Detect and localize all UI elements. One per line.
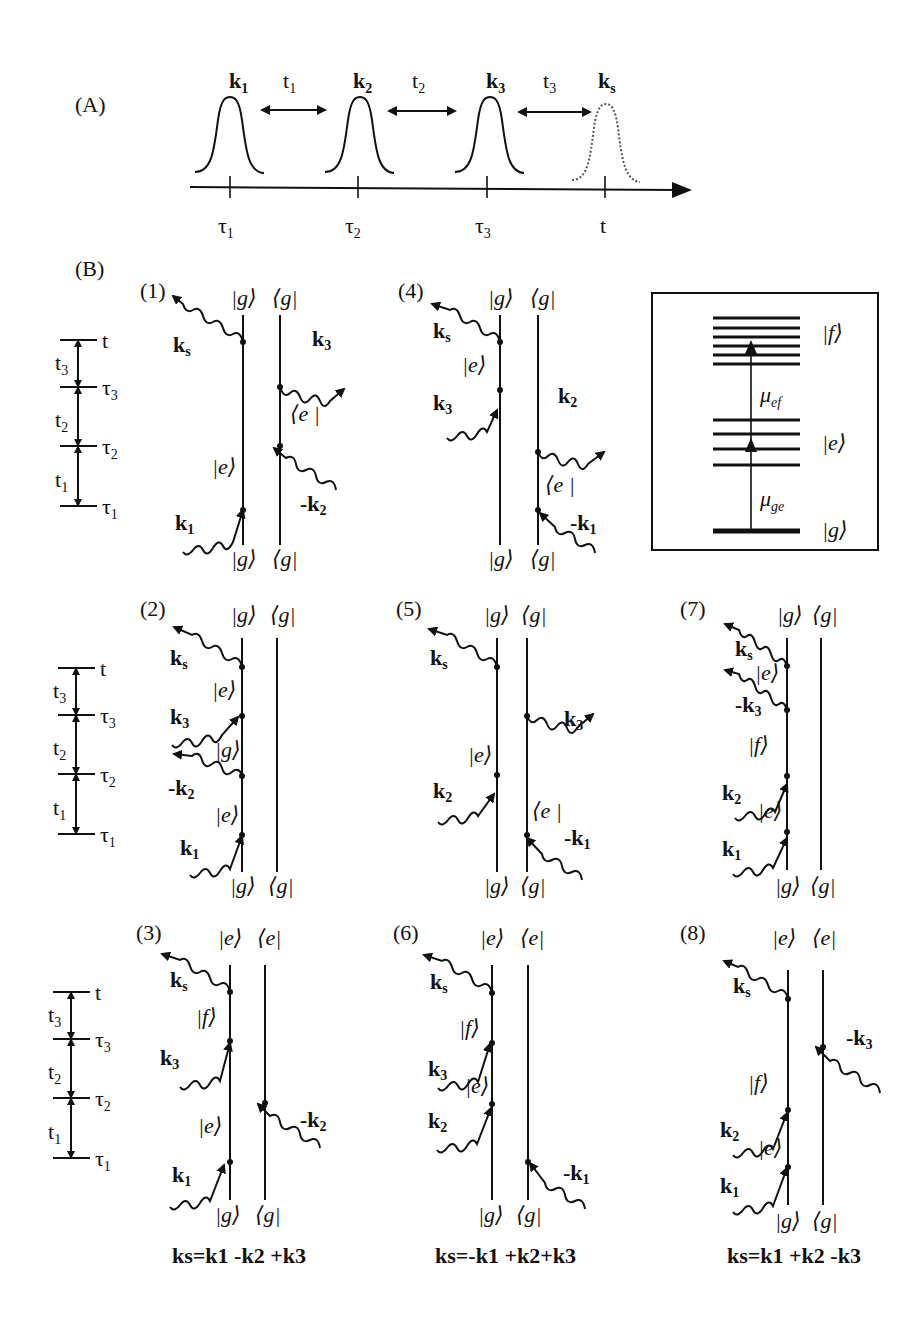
timeline-t: t (102, 328, 108, 353)
svg-text:|e⟩: |e⟩ (468, 742, 492, 767)
svg-text:|g⟩: |g⟩ (488, 546, 514, 571)
svg-text:|e⟩: |e⟩ (462, 352, 486, 377)
svg-text:k3: k3 (564, 706, 583, 733)
svg-text:k1: k1 (180, 835, 199, 862)
svg-text:|e⟩: |e⟩ (755, 660, 779, 685)
svg-text:⟨g|: ⟨g| (810, 873, 836, 898)
svg-text:τ2: τ2 (95, 1086, 111, 1114)
svg-text:k3: k3 (170, 704, 189, 731)
svg-text:|e⟩: |e⟩ (480, 925, 504, 950)
svg-text:-k2: -k2 (300, 491, 327, 518)
svg-text:⟨g|: ⟨g| (812, 602, 838, 627)
energy-level-diagram: |f⟩ |e⟩ |g⟩ μef μge (652, 293, 878, 550)
svg-text:|g⟩: |g⟩ (484, 873, 510, 898)
pulse-k3 (455, 97, 524, 173)
time-label-t: t (600, 213, 606, 238)
svg-text:-k1: -k1 (570, 510, 597, 537)
timeline-tau3: τ3 (102, 375, 118, 403)
svg-text:|e⟩: |e⟩ (218, 925, 242, 950)
svg-text:ks: ks (433, 318, 451, 345)
svg-text:⟨g|: ⟨g| (272, 546, 298, 571)
svg-text:t: t (95, 980, 101, 1005)
svg-text:|e⟩: |e⟩ (822, 430, 846, 455)
svg-text:k2: k2 (433, 778, 452, 805)
svg-text:-k2: -k2 (300, 1107, 327, 1134)
svg-text:|g⟩: |g⟩ (488, 285, 514, 310)
timeline-t3: t3 (55, 350, 68, 378)
diagram-5: (5) |g⟩ ⟨g| |g⟩ ⟨g| ks k3 |e⟩ k2 ⟨e | -k… (396, 596, 593, 898)
svg-text:k3: k3 (428, 1056, 447, 1083)
svg-text:|g⟩: |g⟩ (215, 1202, 241, 1227)
svg-text:t3: t3 (53, 678, 66, 706)
svg-text:⟨g|: ⟨g| (812, 1208, 838, 1233)
svg-text:k3: k3 (160, 1045, 179, 1072)
svg-text:|e⟩: |e⟩ (758, 798, 782, 823)
svg-text:t: t (100, 656, 106, 681)
svg-text:|g⟩: |g⟩ (775, 873, 801, 898)
svg-text:⟨e |: ⟨e | (545, 472, 575, 497)
diagram-7: (7) |g⟩ ⟨g| |g⟩ ⟨g| ks |e⟩ -k3 |f⟩ k2 |e… (680, 596, 838, 898)
pulse-label-k3: k3 (486, 68, 505, 96)
svg-text:τ1: τ1 (95, 1146, 111, 1174)
svg-text:ks: ks (430, 645, 448, 672)
svg-text:k1: k1 (722, 836, 741, 863)
svg-text:⟨g|: ⟨g| (520, 873, 546, 898)
diagram-2: (2) |g⟩ ⟨g| |g⟩ ⟨g| ks |e⟩ k3 |g⟩ -k2 |e… (140, 596, 296, 898)
time-label-tau2: τ2 (345, 213, 361, 241)
delay-label-t2: t2 (412, 68, 425, 96)
timeline-row1: t τ3 τ2 τ1 t3 t2 t1 (55, 328, 118, 522)
panel-a-label: (A) (75, 92, 106, 117)
svg-text:|g⟩: |g⟩ (231, 602, 257, 627)
svg-text:⟨e |: ⟨e | (290, 401, 320, 426)
svg-text:t1: t1 (48, 1119, 61, 1147)
timeline-row3: t τ3 τ2 τ1 t3 t2 t1 (48, 980, 111, 1174)
svg-text:|g⟩: |g⟩ (775, 1208, 801, 1233)
svg-text:ks: ks (170, 967, 188, 994)
svg-text:⟨g|: ⟨g| (530, 546, 556, 571)
svg-text:|g⟩: |g⟩ (231, 546, 257, 571)
svg-text:k2: k2 (720, 1117, 739, 1144)
svg-text:ks: ks (170, 645, 188, 672)
svg-text:|e⟩: |e⟩ (215, 802, 239, 827)
svg-text:(4): (4) (398, 278, 424, 303)
svg-text:t3: t3 (48, 1002, 61, 1030)
svg-text:μge: μge (759, 486, 784, 514)
diagram-4: (4) |g⟩ ⟨g| |g⟩ ⟨g| ks |e⟩ k3 k2 ⟨e | -k… (398, 278, 604, 571)
svg-text:|f⟩: |f⟩ (459, 1015, 480, 1040)
time-label-tau3: τ3 (475, 213, 491, 241)
svg-text:ks: ks (735, 636, 753, 663)
svg-text:⟨g|: ⟨g| (255, 1202, 281, 1227)
svg-text:|f⟩: |f⟩ (748, 732, 769, 757)
svg-text:(3): (3) (136, 920, 162, 945)
svg-text:|g⟩: |g⟩ (230, 873, 256, 898)
svg-text:ks: ks (430, 969, 448, 996)
svg-text:|e⟩: |e⟩ (758, 1135, 782, 1160)
panel-b-label: (B) (75, 256, 104, 281)
svg-text:k1: k1 (175, 510, 194, 537)
svg-text:|f⟩: |f⟩ (196, 1004, 217, 1029)
svg-text:⟨g|: ⟨g| (268, 873, 294, 898)
delay-label-t3: t3 (543, 68, 556, 96)
svg-text:k2: k2 (722, 780, 741, 807)
timeline-t1: t1 (55, 467, 68, 495)
phase-matching-equation: ks=k1 -k2 +k3 (172, 1243, 306, 1268)
arrow-up-icon (745, 438, 757, 452)
svg-text:-k1: -k1 (563, 1160, 590, 1187)
svg-text:k3: k3 (433, 390, 452, 417)
svg-text:|e⟩: |e⟩ (465, 1073, 489, 1098)
svg-text:k1: k1 (720, 1173, 739, 1200)
pulse-k1 (195, 97, 264, 173)
svg-text:|f⟩: |f⟩ (748, 1070, 769, 1095)
svg-text:⟨g|: ⟨g| (270, 602, 296, 627)
timeline-row2: t τ3 τ2 τ1 t3 t2 t1 (53, 656, 116, 850)
diagram-1: (1) |g⟩ ⟨g| |g⟩ ⟨g| ks k3 ⟨e | -k2 |e⟩ k… (140, 278, 344, 571)
pulse-label-k2: k2 (353, 68, 372, 96)
svg-text:τ3: τ3 (100, 703, 116, 731)
svg-text:|g⟩: |g⟩ (478, 1202, 504, 1227)
svg-text:-k1: -k1 (564, 825, 591, 852)
svg-text:|e⟩: |e⟩ (198, 1113, 222, 1138)
svg-text:k2: k2 (558, 383, 577, 410)
svg-text:ks: ks (733, 973, 751, 1000)
timeline-tau1: τ1 (102, 494, 118, 522)
phase-matching-equation: ks=-k1 +k2+k3 (435, 1243, 576, 1268)
